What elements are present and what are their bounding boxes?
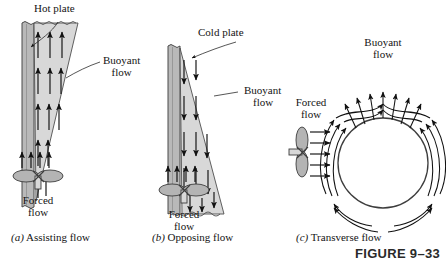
cold-plate-leader xyxy=(192,42,236,58)
buoyant-flow-label-c: Buoyant flow xyxy=(348,36,418,61)
buoyant-flow-label-a: Buoyant flow xyxy=(103,54,140,79)
panel-c-caption: (c) Transverse flow xyxy=(296,231,382,243)
panel-a-caption: (a) Assisting flow xyxy=(11,231,90,243)
buoyant-flow-label-b-line2: flow xyxy=(253,96,273,108)
forced-flow-label-c-line2: flow xyxy=(301,108,321,120)
panel-c-marker: (c) xyxy=(296,231,308,243)
panel-a-marker: (a) xyxy=(11,231,24,243)
buoyant-flow-leader-a xyxy=(66,62,100,78)
figure-9-33: Hot plate Buoyant flow Forced flow (a) A… xyxy=(0,0,446,266)
buoyant-flow-leader-b xyxy=(214,92,238,96)
panel-b-marker: (b) xyxy=(152,231,165,243)
cold-plate-label: Cold plate xyxy=(198,26,244,38)
buoyant-flow-label-a-line2: flow xyxy=(112,66,132,78)
buoyant-flow-label-a-line1: Buoyant xyxy=(103,54,140,66)
hot-plate-label: Hot plate xyxy=(34,2,75,14)
forced-flow-label-c: Forced flow xyxy=(286,96,336,121)
buoyant-flow-label-c-line1: Buoyant xyxy=(364,36,401,48)
panel-b-caption: (b) Opposing flow xyxy=(152,231,233,243)
forced-flow-label-a: Forced flow xyxy=(10,194,66,219)
panel-a-caption-text: Assisting flow xyxy=(26,231,90,243)
figure-number-label: FIGURE 9–33 xyxy=(355,246,440,261)
forced-flow-label-b-line1: Forced xyxy=(169,208,200,220)
buoyant-flow-label-b: Buoyant flow xyxy=(244,84,281,109)
forced-flow-label-a-line1: Forced xyxy=(23,194,54,206)
forced-flow-label-b: Forced flow xyxy=(156,208,212,233)
buoyant-flow-label-b-line1: Buoyant xyxy=(244,84,281,96)
panel-b-caption-text: Opposing flow xyxy=(168,231,234,243)
forced-flow-label-a-line2: flow xyxy=(28,206,48,218)
forced-flow-label-c-line1: Forced xyxy=(296,96,327,108)
cylinder-body xyxy=(338,118,428,208)
buoyant-flow-label-c-line2: flow xyxy=(373,48,393,60)
panel-c-caption-text: Transverse flow xyxy=(311,231,382,243)
forced-flow-fan-c xyxy=(289,127,308,177)
